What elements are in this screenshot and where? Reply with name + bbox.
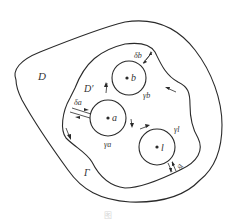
point-l-dot: [155, 145, 158, 148]
point-a-dot: [106, 116, 109, 119]
label-point-a: a: [112, 112, 117, 123]
outer-domain-boundary: [15, 21, 222, 202]
diagram-canvas: D D′ Γ a b l γa γb γl δa δb δl 图: [0, 0, 233, 220]
label-D-prime: D′: [83, 83, 94, 94]
label-gamma-b: γb: [143, 91, 150, 100]
point-b-dot: [125, 76, 128, 79]
figure-caption: 图: [104, 211, 112, 220]
label-point-b: b: [131, 72, 136, 83]
label-delta-b: δb: [134, 51, 142, 60]
label-gamma-a: γa: [104, 140, 111, 149]
label-point-l: l: [161, 142, 164, 153]
slit-delta-b: [143, 51, 152, 64]
label-delta-l: δl: [176, 163, 186, 172]
label-gamma-l: γl: [174, 125, 180, 134]
circle-gamma-b: [112, 61, 146, 95]
label-Gamma: Γ: [83, 167, 90, 178]
slit-delta-a: [70, 108, 91, 119]
slit-delta-l: [168, 161, 176, 173]
label-D: D: [37, 70, 46, 82]
label-delta-a: δa: [74, 98, 82, 107]
